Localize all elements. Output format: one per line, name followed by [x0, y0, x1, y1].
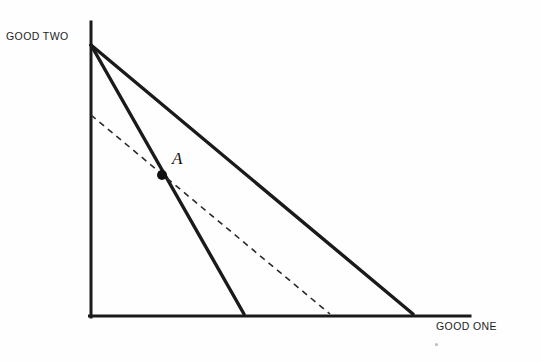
flat-budget-line [91, 45, 413, 314]
x-axis-label: GOOD ONE [436, 321, 497, 332]
y-axis-label: GOOD TWO [6, 31, 69, 42]
budget-lines-group [91, 45, 413, 314]
diagram-canvas: GOOD TWO GOOD ONE A [0, 0, 541, 362]
budget-constraint-plot [0, 0, 541, 362]
point-a-label: A [172, 150, 182, 167]
point-a-marker [157, 170, 167, 180]
scan-speck [435, 343, 438, 346]
